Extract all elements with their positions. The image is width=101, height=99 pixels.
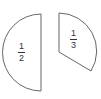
fraction-diagram <box>0 0 101 99</box>
denominator: 3 <box>71 41 76 50</box>
numerator: 1 <box>19 42 24 51</box>
numerator: 1 <box>71 29 76 38</box>
fraction-label-half: 1 2 <box>18 42 25 63</box>
denominator: 2 <box>19 54 24 63</box>
fraction-label-third: 1 3 <box>70 29 77 50</box>
third-sector-shape <box>59 13 97 71</box>
